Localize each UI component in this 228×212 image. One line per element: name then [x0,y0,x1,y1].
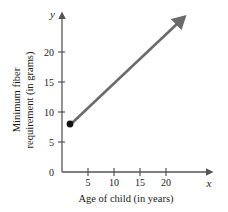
y-axis-variable-label: y [49,8,55,20]
series-ray [71,23,178,124]
x-axis-variable-label: x [206,177,212,189]
y-tick-label-5: 5 [49,137,54,148]
data-series [67,23,178,127]
x-tick-label-10: 10 [109,177,119,188]
y-tick-label-20: 20 [44,47,54,58]
x-axis: 5 10 15 20 x [62,168,212,189]
chart-figure: 5 10 15 20 y 0 5 10 15 20 x Mi [0,0,228,212]
series-start-point [67,121,74,128]
origin-label: 0 [49,167,54,178]
x-tick-label-5: 5 [86,177,91,188]
x-tick-label-15: 15 [135,177,145,188]
y-axis: 5 10 15 20 y [44,8,65,172]
y-tick-label-15: 15 [44,77,54,88]
y-axis-title-line1: Minimum fiber [11,67,22,132]
x-axis-title: Age of child (in years) [78,193,174,205]
x-tick-label-20: 20 [161,177,171,188]
y-axis-title-line2: requirement (in grams) [24,51,36,148]
scatter-line-plot: 5 10 15 20 y 0 5 10 15 20 x Mi [0,0,228,212]
y-tick-label-10: 10 [44,107,54,118]
y-axis-title: Minimum fiber requirement (in grams) [11,51,36,148]
